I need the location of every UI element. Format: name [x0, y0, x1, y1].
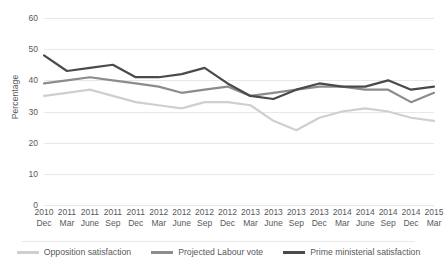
- y-axis-tick-labels: 6050403020100: [0, 0, 44, 223]
- legend-item-label: Projected Labour vote: [178, 247, 263, 257]
- x-axis-tick-label: 2015Mar: [419, 207, 448, 228]
- y-axis-tick-label: 50: [29, 45, 38, 54]
- legend-swatch-icon: [283, 251, 305, 254]
- gridline: [44, 205, 434, 206]
- legend-item-label: Opposition satisfaction: [44, 247, 131, 257]
- legend-swatch-icon: [151, 251, 173, 254]
- y-axis-tick-label: 20: [29, 138, 38, 147]
- x-tick-month: Mar: [419, 218, 448, 229]
- y-axis-tick-label: 30: [29, 107, 38, 116]
- legend-swatch-icon: [17, 251, 39, 254]
- x-tick-year: 2015: [419, 207, 448, 218]
- plot-area: [44, 18, 434, 205]
- legend-item[interactable]: Prime ministerial satisfaction: [283, 247, 420, 257]
- y-axis-tick-label: 10: [29, 170, 38, 179]
- series-line: [44, 90, 434, 131]
- legend-item-label: Prime ministerial satisfaction: [310, 247, 420, 257]
- series-lines: [44, 18, 434, 205]
- legend-item[interactable]: Opposition satisfaction: [17, 247, 131, 257]
- y-axis-tick-label: 60: [29, 14, 38, 23]
- x-axis-tick-labels: 2010Dec2011Mar2011June2011Sep2011Dec2012…: [44, 207, 434, 235]
- legend-item[interactable]: Projected Labour vote: [151, 247, 263, 257]
- chart-legend: Opposition satisfactionProjected Labour …: [0, 241, 437, 263]
- y-axis-tick-label: 40: [29, 76, 38, 85]
- legend-separator: [22, 241, 415, 242]
